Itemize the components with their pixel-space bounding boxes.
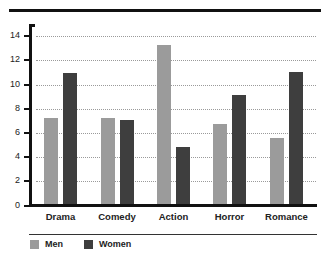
x-axis	[29, 204, 317, 207]
y-axis-cap	[29, 24, 35, 27]
y-tick	[24, 180, 30, 182]
x-tick-label: Action	[144, 211, 204, 222]
bar-romance-women	[289, 72, 303, 206]
y-tick-label: 10	[0, 79, 20, 89]
bar-drama-women	[63, 73, 77, 206]
legend-label-men: Men	[45, 239, 63, 249]
gridline	[36, 60, 316, 61]
bar-horror-women	[232, 95, 246, 206]
y-tick-label: 12	[0, 54, 20, 64]
x-tick-label: Comedy	[87, 211, 147, 222]
y-tick	[24, 84, 30, 86]
y-tick	[24, 59, 30, 61]
y-tick-label: 8	[0, 103, 20, 113]
bar-romance-men	[270, 138, 284, 206]
gridline	[36, 36, 316, 37]
x-tick-label: Drama	[31, 211, 91, 222]
gridline	[36, 85, 316, 86]
gridline	[36, 133, 316, 134]
legend-divider	[29, 234, 317, 235]
legend-swatch-men	[30, 240, 39, 249]
y-tick-label: 4	[0, 151, 20, 161]
x-tick-label: Horror	[200, 211, 260, 222]
bar-horror-men	[213, 124, 227, 206]
bar-action-men	[157, 45, 171, 206]
bar-drama-men	[44, 118, 58, 206]
y-tick-label: 14	[0, 30, 20, 40]
legend-swatch-women	[84, 240, 93, 249]
y-tick	[24, 156, 30, 158]
bar-comedy-women	[120, 120, 134, 206]
bar-comedy-men	[101, 118, 115, 206]
y-tick	[24, 108, 30, 110]
y-tick	[24, 132, 30, 134]
y-tick	[24, 35, 30, 37]
x-tick-label: Romance	[257, 211, 317, 222]
y-tick-label: 2	[0, 175, 20, 185]
top-rule	[9, 9, 321, 12]
y-tick-label: 6	[0, 127, 20, 137]
legend-label-women: Women	[99, 239, 131, 249]
gridline	[36, 109, 316, 110]
y-tick-label: 0	[0, 200, 20, 210]
bar-action-women	[176, 147, 190, 206]
